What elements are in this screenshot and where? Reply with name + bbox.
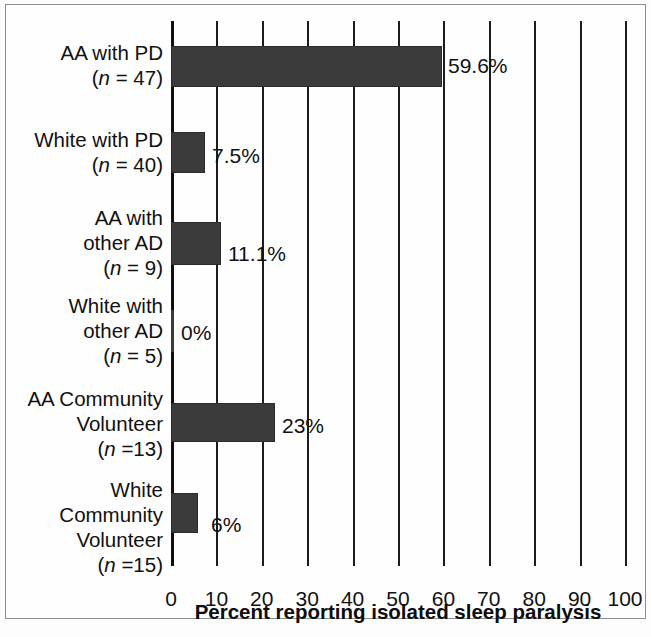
category-n: (n = 47) — [60, 65, 163, 90]
value-label-aa-other-ad: 11.1% — [228, 242, 286, 266]
x-axis-title: Percent reporting isolated sleep paralys… — [171, 600, 625, 624]
bar-aa-other-ad — [171, 222, 221, 265]
category-line: AA with — [83, 205, 163, 230]
gridline-50 — [398, 21, 400, 566]
category-label-aa-with-pd: AA with PD (n = 47) — [60, 40, 163, 90]
bar-chart-figure: AA with PD (n = 47) White with PD (n = 4… — [0, 0, 651, 637]
n-value: = 40) — [110, 153, 163, 176]
bar-aa-with-pd — [171, 46, 442, 87]
gridline-80 — [534, 21, 536, 566]
gridline-0 — [171, 21, 174, 566]
category-line: White with — [68, 293, 163, 318]
plot-area: 59.6% 7.5% 11.1% 0% 23% 6% 0 10 20 30 40… — [171, 21, 625, 566]
category-label-white-other-ad: White with other AD (n = 5) — [68, 293, 163, 368]
category-line: AA with PD — [60, 40, 163, 65]
bar-aa-community-volunteer — [171, 403, 275, 442]
category-line: Volunteer — [27, 411, 163, 436]
category-line: White — [59, 477, 163, 502]
category-n: (n =15) — [59, 552, 163, 577]
paren-open: ( — [92, 153, 99, 176]
category-n: (n = 40) — [34, 152, 163, 177]
category-line: Volunteer — [59, 527, 163, 552]
category-n: (n =13) — [27, 436, 163, 461]
n-value: =13) — [116, 437, 163, 460]
category-labels: AA with PD (n = 47) White with PD (n = 4… — [0, 0, 163, 566]
n-symbol: n — [104, 553, 115, 576]
category-n: (n = 9) — [83, 255, 163, 280]
bar-white-with-pd — [171, 132, 205, 173]
category-line: White with PD — [34, 127, 163, 152]
n-symbol: n — [110, 344, 121, 367]
n-value: =15) — [116, 553, 163, 576]
n-value: = 47) — [110, 66, 163, 89]
category-label-aa-other-ad: AA with other AD (n = 9) — [83, 205, 163, 280]
gridline-20 — [262, 21, 264, 566]
value-label-aa-community-volunteer: 23% — [282, 414, 324, 438]
value-label-white-other-ad: 0% — [181, 321, 211, 345]
category-label-white-community-volunteer: White Community Volunteer (n =15) — [59, 477, 163, 577]
category-line: other AD — [83, 230, 163, 255]
n-symbol: n — [99, 66, 110, 89]
category-n: (n = 5) — [68, 343, 163, 368]
paren-open: ( — [103, 256, 110, 279]
category-line: Community — [59, 502, 163, 527]
bar-white-other-ad — [171, 310, 174, 352]
value-label-white-with-pd: 7.5% — [212, 144, 260, 168]
paren-open: ( — [103, 344, 110, 367]
n-symbol: n — [99, 153, 110, 176]
gridline-30 — [307, 21, 309, 566]
gridline-70 — [489, 21, 491, 566]
value-label-white-community-volunteer: 6% — [211, 513, 241, 537]
paren-open: ( — [92, 66, 99, 89]
category-line: AA Community — [27, 386, 163, 411]
n-value: = 5) — [121, 344, 163, 367]
gridline-40 — [353, 21, 355, 566]
bar-white-community-volunteer — [171, 493, 198, 533]
category-line: other AD — [68, 318, 163, 343]
n-symbol: n — [104, 437, 115, 460]
gridline-90 — [580, 21, 582, 566]
n-value: = 9) — [121, 256, 163, 279]
category-label-white-with-pd: White with PD (n = 40) — [34, 127, 163, 177]
category-label-aa-community-volunteer: AA Community Volunteer (n =13) — [27, 386, 163, 461]
value-label-aa-with-pd: 59.6% — [448, 54, 508, 78]
gridline-10 — [216, 21, 218, 566]
gridline-60 — [443, 21, 445, 566]
n-symbol: n — [110, 256, 121, 279]
gridline-100 — [625, 21, 627, 566]
